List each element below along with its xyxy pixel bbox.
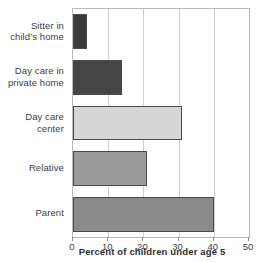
bar <box>73 197 214 232</box>
plot-area <box>72 8 250 238</box>
category-label: Day care center <box>0 111 64 134</box>
gridline <box>214 9 215 237</box>
category-label: Relative <box>0 162 64 174</box>
bar <box>73 60 122 95</box>
category-label: Parent <box>0 207 64 219</box>
bar <box>73 151 147 186</box>
bar <box>73 14 87 49</box>
category-label: Sitter in child’s home <box>0 19 64 42</box>
bar-chart: Sitter in child’s home Day care in priva… <box>0 0 268 262</box>
category-axis-labels: Sitter in child’s home Day care in priva… <box>0 8 68 236</box>
bar <box>73 106 182 141</box>
category-label: Day care in private home <box>0 65 64 88</box>
x-axis-title: Percent of children under age 5 <box>0 246 268 257</box>
